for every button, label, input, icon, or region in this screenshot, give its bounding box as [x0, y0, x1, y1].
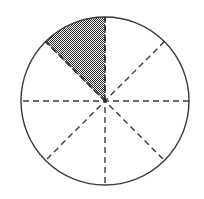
- diagram-canvas: Circle divided into eight equal sectors …: [0, 0, 204, 199]
- circle-center-point: [103, 99, 106, 102]
- circle-eighths-figure: Circle divided into eight equal sectors …: [0, 0, 204, 199]
